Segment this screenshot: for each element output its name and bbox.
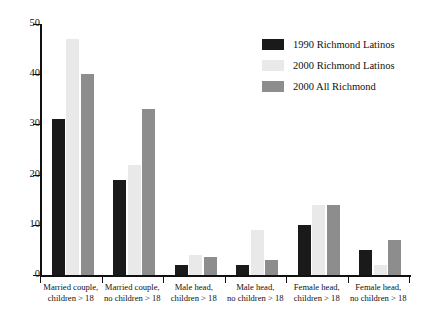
category-label-line: no children > 18 — [340, 293, 418, 304]
x-axis-category-label: Female head,no children > 18 — [340, 282, 418, 303]
bar — [374, 265, 387, 275]
y-axis-tick: 40 — [0, 74, 40, 75]
y-axis-tick-label: 0 — [14, 269, 40, 280]
bar — [251, 230, 264, 275]
x-axis-line — [40, 275, 411, 277]
bar — [189, 255, 202, 275]
y-axis-tick-label: 10 — [14, 219, 40, 230]
bar — [236, 265, 249, 275]
bar — [265, 260, 278, 275]
bar — [388, 240, 401, 275]
bar — [113, 180, 126, 275]
bar — [312, 205, 325, 275]
category-label-line: Female head, — [340, 282, 418, 293]
bar-group — [42, 24, 104, 275]
bar — [327, 205, 340, 275]
y-axis-tick-label: 20 — [14, 169, 40, 180]
legend-label: 2000 Richmond Latinos — [293, 60, 395, 71]
bar — [66, 39, 79, 275]
y-axis-tick-label: 50 — [14, 18, 40, 29]
y-axis-tick-label: 40 — [14, 68, 40, 79]
bar — [81, 74, 94, 275]
bar — [204, 257, 217, 275]
bar-group — [165, 24, 227, 275]
bar-chart: 01020304050 Married couple,children > 18… — [0, 0, 440, 314]
bar-group — [104, 24, 166, 275]
legend-item: 2000 Richmond Latinos — [262, 57, 437, 74]
bar — [128, 165, 141, 275]
legend-swatch-icon — [262, 60, 284, 71]
legend-label: 2000 All Richmond — [293, 81, 376, 92]
legend-item: 1990 Richmond Latinos — [262, 36, 437, 53]
legend-item: 2000 All Richmond — [262, 78, 437, 95]
y-axis-tick-label: 30 — [14, 118, 40, 129]
x-axis-category-labels: Married couple,children > 18Married coup… — [40, 282, 411, 312]
bar — [359, 250, 372, 275]
bar — [142, 109, 155, 275]
bar — [298, 225, 311, 275]
chart-legend: 1990 Richmond Latinos2000 Richmond Latin… — [262, 36, 437, 99]
legend-label: 1990 Richmond Latinos — [293, 39, 395, 50]
y-axis-tick: 50 — [0, 24, 40, 25]
y-axis-tick: 10 — [0, 225, 40, 226]
y-axis-tick: 0 — [0, 275, 40, 276]
legend-swatch-icon — [262, 39, 284, 50]
y-axis-tick: 20 — [0, 175, 40, 176]
bar — [175, 265, 188, 275]
legend-swatch-icon — [262, 81, 284, 92]
y-axis-tick: 30 — [0, 124, 40, 125]
bar — [52, 119, 65, 275]
